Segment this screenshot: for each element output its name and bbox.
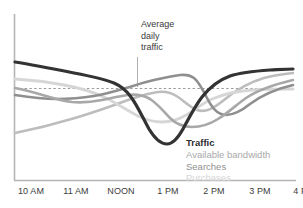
annotation-average-daily-traffic: Average daily traffic — [141, 19, 174, 54]
legend-item-available-bandwidth: Available bandwidth — [186, 149, 270, 161]
x-tick-label-3pm: 3 PM — [237, 186, 283, 196]
legend-item-searches: Searches — [186, 161, 270, 173]
chart-legend: Traffic Available bandwidth Searches Pur… — [186, 137, 270, 184]
x-tick-label-2pm: 2 PM — [191, 186, 237, 196]
chart-container: Average daily traffic Traffic Available … — [0, 0, 303, 208]
x-tick-label-10am: 10 AM — [8, 186, 54, 196]
legend-item-traffic: Traffic — [186, 137, 270, 149]
legend-item-purchases: Purchases — [186, 172, 270, 184]
x-tick-label-4pm: 4 PM — [281, 186, 303, 196]
x-tick-label-1pm: 1 PM — [145, 186, 191, 196]
x-tick-label-noon: NOON — [98, 186, 144, 196]
x-tick-label-11am: 11 AM — [53, 186, 99, 196]
